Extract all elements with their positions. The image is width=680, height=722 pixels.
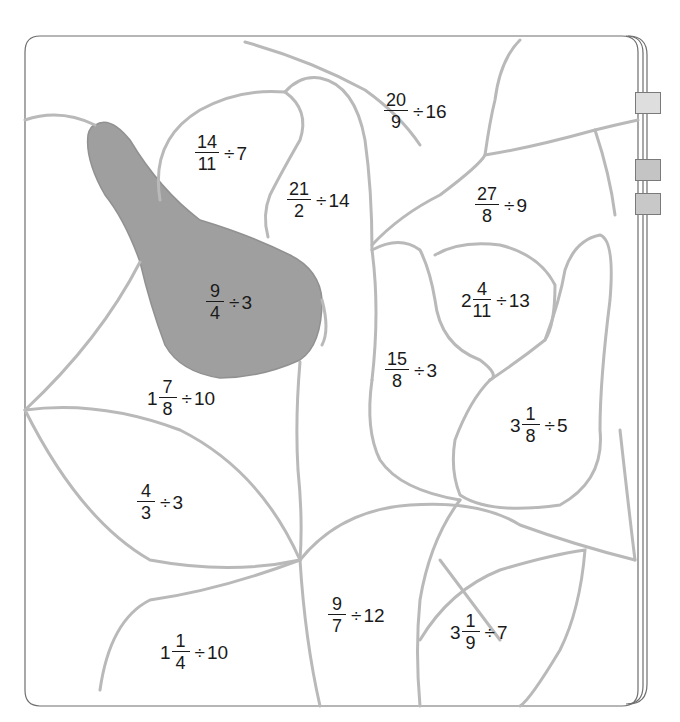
fraction: 1411: [195, 133, 219, 173]
fraction: 14: [172, 632, 190, 672]
divide-sign: ÷: [414, 361, 424, 380]
problem-13: 3 19 ÷ 7: [450, 612, 508, 652]
fraction: 97: [328, 595, 346, 635]
divisor: 3: [172, 493, 183, 512]
divide-sign: ÷: [195, 643, 205, 662]
divide-sign: ÷: [413, 102, 423, 121]
fraction: 94: [206, 282, 224, 322]
problem-12: 1 14 ÷ 10: [160, 632, 228, 672]
divisor: 3: [241, 293, 252, 312]
problem-6: 2 411 ÷ 13: [461, 280, 530, 320]
divisor: 10: [207, 643, 228, 662]
divide-sign: ÷: [545, 416, 555, 435]
problem-7: 158 ÷ 3: [385, 350, 437, 390]
divide-sign: ÷: [504, 196, 514, 215]
whole-number: 3: [450, 623, 461, 642]
problem-11: 97 ÷ 12: [328, 595, 385, 635]
divisor: 7: [497, 623, 508, 642]
side-tab-1[interactable]: [635, 92, 661, 114]
fraction: 212: [287, 180, 311, 220]
divisor: 7: [236, 144, 247, 163]
problem-9: 3 18 ÷ 5: [510, 405, 568, 445]
problem-4: 278 ÷ 9: [475, 185, 527, 225]
divide-sign: ÷: [160, 493, 170, 512]
divisor: 10: [194, 389, 215, 408]
fraction: 411: [473, 280, 492, 320]
whole-number: 3: [510, 416, 521, 435]
whole-number: 1: [160, 643, 171, 662]
whole-number: 1: [147, 389, 158, 408]
divide-sign: ÷: [229, 293, 239, 312]
divisor: 12: [363, 606, 384, 625]
problem-3: 209 ÷ 16: [384, 91, 447, 131]
divisor: 16: [425, 102, 446, 121]
side-tab-2[interactable]: [635, 159, 661, 181]
fraction: 209: [384, 91, 408, 131]
divide-sign: ÷: [316, 191, 326, 210]
divide-sign: ÷: [224, 144, 234, 163]
fraction: 158: [385, 350, 409, 390]
divide-sign: ÷: [351, 606, 361, 625]
whole-number: 2: [461, 291, 472, 310]
divisor: 9: [516, 196, 527, 215]
fraction: 78: [159, 378, 177, 418]
divisor: 3: [426, 361, 437, 380]
problem-10: 43 ÷ 3: [137, 482, 183, 522]
divide-sign: ÷: [485, 623, 495, 642]
problem-1: 1411 ÷ 7: [195, 133, 247, 173]
divisor: 5: [557, 416, 568, 435]
fraction: 43: [137, 482, 155, 522]
fraction: 18: [522, 405, 540, 445]
problem-2: 212 ÷ 14: [287, 180, 350, 220]
fraction: 278: [475, 185, 499, 225]
fraction: 19: [462, 612, 480, 652]
problem-5: 94 ÷ 3: [206, 282, 252, 322]
side-tab-3[interactable]: [635, 193, 661, 215]
worksheet-page: 1411 ÷ 7 212 ÷ 14 209 ÷ 16 278 ÷ 9 94 ÷ …: [0, 0, 680, 722]
problem-8: 1 78 ÷ 10: [147, 378, 215, 418]
divide-sign: ÷: [496, 291, 506, 310]
divide-sign: ÷: [182, 389, 192, 408]
divisor: 14: [328, 191, 349, 210]
divisor: 13: [509, 291, 530, 310]
